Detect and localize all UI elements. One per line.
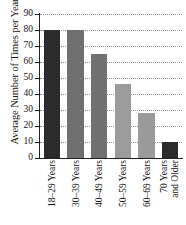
gridline bbox=[40, 142, 182, 143]
bar bbox=[91, 54, 108, 158]
y-tick-label: 10 bbox=[0, 137, 33, 146]
bar bbox=[138, 113, 155, 158]
y-tick-label: 40 bbox=[0, 89, 33, 98]
y-tick-mark bbox=[35, 30, 39, 31]
bar bbox=[162, 142, 179, 158]
x-tick-label: 40–49 Years bbox=[94, 160, 108, 222]
y-tick-mark bbox=[35, 158, 39, 159]
y-tick-label: 50 bbox=[0, 73, 33, 82]
y-tick-mark bbox=[35, 94, 39, 95]
y-tick-mark bbox=[35, 126, 39, 127]
y-tick-label: 0 bbox=[0, 153, 33, 162]
gridline bbox=[40, 110, 182, 111]
bar bbox=[67, 30, 84, 158]
plot-area bbox=[40, 14, 182, 158]
y-tick-mark bbox=[35, 14, 39, 15]
y-tick-label: 80 bbox=[0, 25, 33, 34]
gridline bbox=[40, 30, 182, 31]
gridline bbox=[40, 14, 182, 15]
gridline bbox=[40, 46, 182, 47]
bar bbox=[44, 30, 61, 158]
y-tick-mark bbox=[35, 142, 39, 143]
x-tick-label: 60–69 Years bbox=[142, 160, 156, 222]
gridline bbox=[40, 62, 182, 63]
x-axis-line bbox=[39, 158, 183, 159]
y-tick-label: 90 bbox=[0, 9, 33, 18]
y-tick-mark bbox=[35, 110, 39, 111]
gridline bbox=[40, 78, 182, 79]
y-tick-mark bbox=[35, 62, 39, 63]
bar-chart-figure: Average Number of Times per Year 0102030… bbox=[0, 0, 186, 225]
y-tick-mark bbox=[35, 78, 39, 79]
x-tick-label: 70 Yearsand Older bbox=[159, 160, 183, 222]
x-tick-label: 18–29 Years bbox=[47, 160, 61, 222]
x-tick-label: 50–59 Years bbox=[118, 160, 132, 222]
y-tick-mark bbox=[35, 46, 39, 47]
gridline bbox=[40, 126, 182, 127]
y-tick-label: 70 bbox=[0, 41, 33, 50]
gridline bbox=[40, 94, 182, 95]
y-tick-label: 30 bbox=[0, 105, 33, 114]
bar bbox=[115, 84, 132, 158]
y-tick-label: 60 bbox=[0, 57, 33, 66]
y-tick-label: 20 bbox=[0, 121, 33, 130]
x-tick-label: 30–39 Years bbox=[71, 160, 85, 222]
